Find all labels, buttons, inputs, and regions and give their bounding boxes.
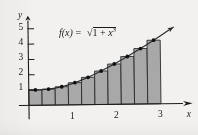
- riemann-rectangle: [147, 40, 161, 104]
- riemann-rectangle: [55, 87, 68, 105]
- riemann-rectangle: [29, 90, 42, 105]
- y-axis-label: y: [18, 11, 22, 21]
- y-axis-line: [28, 20, 29, 119]
- formula-fx: f(x): [59, 27, 73, 38]
- y-tick-label-5: 5: [19, 23, 24, 33]
- riemann-rectangle: [42, 89, 55, 105]
- riemann-rectangle: [121, 56, 135, 104]
- radical-vinculum: [93, 27, 116, 28]
- y-tick-label-3: 3: [19, 53, 24, 63]
- y-axis-arrowhead: [25, 16, 30, 21]
- riemann-rectangle: [108, 64, 122, 104]
- figure-canvas: 1 2 3 4 5 1 2 3 y x f(x) = √1 + x3: [0, 0, 198, 135]
- x-tick-label-1: 1: [70, 112, 75, 122]
- function-formula: f(x) = √1 + x3: [59, 26, 116, 38]
- y-tick-label-1: 1: [19, 83, 24, 93]
- riemann-rectangle: [134, 48, 148, 104]
- plot-svg: [0, 0, 198, 135]
- y-tick-label-2: 2: [19, 68, 24, 78]
- y-tick-label-4: 4: [19, 38, 24, 48]
- riemann-rectangle: [68, 83, 81, 105]
- x-tick-label-2: 2: [114, 111, 119, 121]
- x-tick-label-3: 3: [158, 110, 163, 120]
- x-axis-arrowhead: [183, 101, 193, 106]
- x-axis-label: x: [187, 110, 191, 120]
- formula-radical-group: √1 + x3: [86, 26, 116, 38]
- curve-arrowhead: [167, 27, 173, 32]
- riemann-rectangle: [95, 71, 109, 105]
- riemann-rectangle: [81, 77, 95, 104]
